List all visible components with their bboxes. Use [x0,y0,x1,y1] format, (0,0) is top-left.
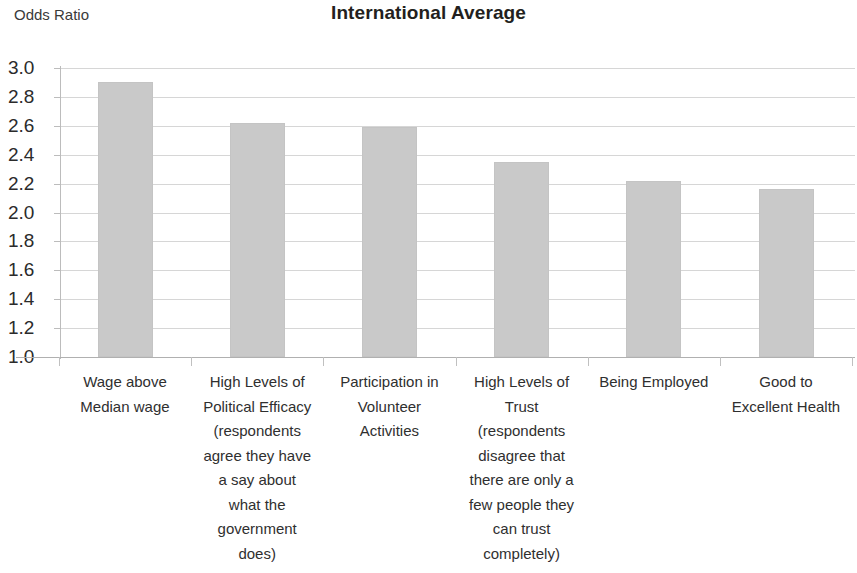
gridline [60,97,855,98]
gridline [60,270,855,271]
x-axis-category-label: High Levels ofPolitical Efficacy(respond… [191,370,323,566]
x-axis-category-label: High Levels ofTrust(respondentsdisagree … [456,370,588,566]
bar [98,82,153,357]
x-axis-category-label-line: Volunteer [323,395,455,420]
y-tick-label: 2.2 [8,174,50,193]
y-tick-label: 1.2 [8,318,50,337]
x-axis-category-label-line: Being Employed [588,370,720,395]
x-axis-category-label-line: Participation in [323,370,455,395]
x-axis-category-label-line: completely) [456,542,588,567]
x-axis-category-label-line: Trust [456,395,588,420]
x-axis-category-label: Good toExcellent Health [720,370,852,419]
bar-chart: Odds Ratio International Average 3.02.82… [0,0,857,573]
gridlines [60,68,855,357]
x-axis-category-label-line: a say about [191,468,323,493]
x-axis-category-label-line: Wage above [59,370,191,395]
x-tick-mark [456,357,457,366]
chart-title: International Average [0,2,857,24]
x-axis-category-label-line: what the [191,493,323,518]
x-axis-category-label-line: government [191,517,323,542]
gridline [60,126,855,127]
bar [230,123,285,357]
y-tick-label: 2.8 [8,87,50,106]
x-axis-category-label-line: (respondents [191,419,323,444]
x-axis-category-label-line: disagree that [456,444,588,469]
x-tick-mark [720,357,721,366]
x-axis-category-label: Wage aboveMedian wage [59,370,191,419]
y-tick-label: 2.4 [8,145,50,164]
x-tick-mark [191,357,192,366]
y-tick-label: 1.8 [8,231,50,250]
x-axis-category-label-line: High Levels of [191,370,323,395]
y-axis-line [60,66,61,359]
gridline [60,155,855,156]
gridline [60,68,855,69]
x-axis-category-label-line: few people they [456,493,588,518]
gridline [60,213,855,214]
x-axis-category-label: Participation inVolunteerActivities [323,370,455,444]
x-axis-category-label-line: can trust [456,517,588,542]
gridline [60,328,855,329]
x-axis-category-label-line: Excellent Health [720,395,852,420]
bar [494,162,549,357]
x-axis-category-label-line: Good to [720,370,852,395]
y-tick-label: 3.0 [8,58,50,77]
x-axis-category-label-line: High Levels of [456,370,588,395]
x-tick-mark [59,357,60,366]
x-axis-category-label-line: Political Efficacy [191,395,323,420]
bar [626,181,681,357]
x-axis-category-label-line: there are only a [456,468,588,493]
x-axis-category-label: Being Employed [588,370,720,395]
gridline [60,299,855,300]
bar [362,127,417,357]
x-axis-category-label-line: agree they have [191,444,323,469]
x-tick-mark [852,357,853,366]
x-tick-mark [323,357,324,366]
x-axis-category-label-line: (respondents [456,419,588,444]
y-tick-label: 2.0 [8,203,50,222]
y-tick-label: 1.6 [8,260,50,279]
x-axis-category-label-line: does) [191,542,323,567]
gridline [60,184,855,185]
y-tick-label: 2.6 [8,116,50,135]
x-axis-category-label-line: Median wage [59,395,191,420]
x-axis-category-label-line: Activities [323,419,455,444]
x-axis-line [16,357,855,358]
x-tick-mark [588,357,589,366]
gridline [60,241,855,242]
bar [759,189,814,357]
y-tick-label: 1.4 [8,289,50,308]
